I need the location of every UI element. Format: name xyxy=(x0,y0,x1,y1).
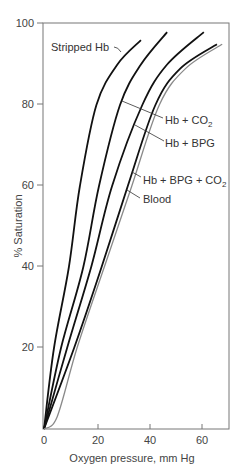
label-hb-co2: Hb + CO2 xyxy=(165,114,213,129)
y-axis xyxy=(37,23,43,347)
curves xyxy=(44,32,222,429)
y-tick-100: 100 xyxy=(16,17,34,29)
label-hb-bpg: Hb + BPG xyxy=(165,137,215,149)
y-tick-40: 40 xyxy=(22,260,34,272)
oxygen-saturation-chart: 100 80 60 40 20 0 20 40 60 Oxygen pressu… xyxy=(0,0,240,469)
y-tick-80: 80 xyxy=(22,98,34,110)
y-axis-title: % Saturation xyxy=(12,195,24,258)
x-axis-title: Oxygen pressure, mm Hg xyxy=(69,452,194,464)
curve-blood xyxy=(44,44,222,429)
x-tick-60: 60 xyxy=(196,434,208,446)
curve-hb-bpg xyxy=(44,32,204,429)
x-tick-20: 20 xyxy=(92,434,104,446)
curve-stripped-hb xyxy=(44,40,141,429)
y-tick-20: 20 xyxy=(22,341,34,353)
y-tick-60: 60 xyxy=(22,179,34,191)
label-hb-bpg-co2: Hb + BPG + CO2 xyxy=(143,174,227,189)
x-tick-40: 40 xyxy=(144,434,156,446)
x-axis xyxy=(98,424,202,429)
label-stripped-hb: Stripped Hb xyxy=(51,41,109,53)
x-tick-0: 0 xyxy=(41,434,47,446)
label-blood: Blood xyxy=(143,193,171,205)
